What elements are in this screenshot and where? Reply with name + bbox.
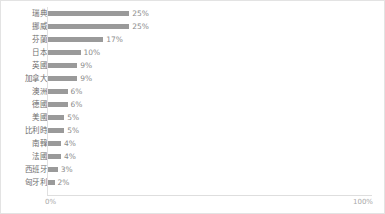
bar-value-label: 5% bbox=[64, 124, 79, 137]
category-label: 挪威 bbox=[0, 20, 47, 33]
bar bbox=[48, 115, 64, 120]
category-label: 比利時 bbox=[0, 124, 47, 137]
bar-value-label: 17% bbox=[103, 33, 123, 46]
bar-track: 2% bbox=[48, 176, 378, 189]
bar bbox=[48, 154, 61, 159]
bar-value-label: 3% bbox=[58, 163, 73, 176]
category-label: 日本 bbox=[0, 46, 47, 59]
bar-row: 德國 6% bbox=[1, 98, 385, 111]
bar-row: 瑞典 25% bbox=[1, 7, 385, 20]
bar-row: 日本 10% bbox=[1, 46, 385, 59]
bar-value-label: 9% bbox=[77, 59, 92, 72]
bar-value-label: 9% bbox=[77, 72, 92, 85]
bar-track: 9% bbox=[48, 72, 378, 85]
bar-value-label: 6% bbox=[68, 85, 83, 98]
bar-row: 芬蘭 17% bbox=[1, 33, 385, 46]
bar-value-label: 4% bbox=[61, 137, 76, 150]
category-label: 美國 bbox=[0, 111, 47, 124]
bar-row: 西班牙 3% bbox=[1, 163, 385, 176]
bar bbox=[48, 76, 77, 81]
category-label: 法國 bbox=[0, 150, 47, 163]
category-label: 加拿大 bbox=[0, 72, 47, 85]
bar bbox=[48, 141, 61, 146]
bar-track: 25% bbox=[48, 20, 378, 33]
bar-track: 5% bbox=[48, 111, 378, 124]
bar-track: 6% bbox=[48, 98, 378, 111]
y-axis-line bbox=[47, 7, 48, 195]
bar bbox=[48, 167, 58, 172]
bar-value-label: 5% bbox=[64, 111, 79, 124]
bar-row: 澳洲 6% bbox=[1, 85, 385, 98]
bar-track: 17% bbox=[48, 33, 378, 46]
bar-track: 4% bbox=[48, 150, 378, 163]
category-label: 瑞典 bbox=[0, 7, 47, 20]
bar-value-label: 25% bbox=[129, 7, 149, 20]
category-label: 澳洲 bbox=[0, 85, 47, 98]
bar-row: 南韓 4% bbox=[1, 137, 385, 150]
bar bbox=[48, 24, 129, 29]
category-label: 匈牙利 bbox=[0, 176, 47, 189]
category-label: 德國 bbox=[0, 98, 47, 111]
bar bbox=[48, 63, 77, 68]
bar-row: 美國 5% bbox=[1, 111, 385, 124]
x-axis-line bbox=[47, 195, 372, 196]
bar-row: 英國 9% bbox=[1, 59, 385, 72]
bar-value-label: 4% bbox=[61, 150, 76, 163]
bar-row: 比利時 5% bbox=[1, 124, 385, 137]
x-axis-tick-max: 100% bbox=[353, 197, 373, 207]
bar-value-label: 10% bbox=[81, 46, 101, 59]
bar-value-label: 25% bbox=[129, 20, 149, 33]
plot-area: 瑞典 25% 挪威 25% 芬蘭 17% 日本 10% bbox=[1, 1, 385, 214]
bar-track: 10% bbox=[48, 46, 378, 59]
bar-track: 3% bbox=[48, 163, 378, 176]
bar bbox=[48, 89, 68, 94]
category-label: 芬蘭 bbox=[0, 33, 47, 46]
bar-value-label: 6% bbox=[68, 98, 83, 111]
bar-track: 5% bbox=[48, 124, 378, 137]
bar-row: 挪威 25% bbox=[1, 20, 385, 33]
bar bbox=[48, 102, 68, 107]
bar-track: 9% bbox=[48, 59, 378, 72]
bar-value-label: 2% bbox=[55, 176, 70, 189]
bar bbox=[48, 50, 81, 55]
category-label: 西班牙 bbox=[0, 163, 47, 176]
bar-row: 法國 4% bbox=[1, 150, 385, 163]
bar bbox=[48, 11, 129, 16]
category-label: 英國 bbox=[0, 59, 47, 72]
bar-chart-figure: 瑞典 25% 挪威 25% 芬蘭 17% 日本 10% bbox=[0, 0, 385, 214]
bar-row: 匈牙利 2% bbox=[1, 176, 385, 189]
bar-track: 25% bbox=[48, 7, 378, 20]
bar-track: 6% bbox=[48, 85, 378, 98]
category-label: 南韓 bbox=[0, 137, 47, 150]
bar bbox=[48, 37, 103, 42]
bar bbox=[48, 128, 64, 133]
bar-track: 4% bbox=[48, 137, 378, 150]
bar-row: 加拿大 9% bbox=[1, 72, 385, 85]
x-axis-tick-min: 0% bbox=[45, 197, 56, 207]
